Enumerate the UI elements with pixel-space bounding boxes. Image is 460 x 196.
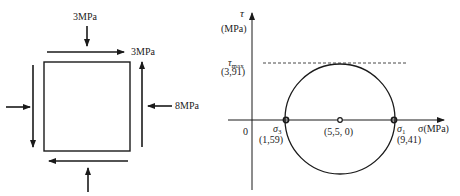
center-point bbox=[338, 118, 343, 123]
element-square bbox=[44, 62, 130, 151]
tau-max-value: (3,91) bbox=[221, 67, 245, 77]
sigma3-value: (1,59) bbox=[259, 135, 283, 145]
tau-axis-symbol: τ bbox=[240, 8, 244, 19]
center-value: (5,5, 0) bbox=[324, 127, 353, 137]
origin-label: 0 bbox=[243, 127, 248, 137]
top-normal-stress-label: 3MPa bbox=[73, 12, 97, 22]
mohr-circle-plot bbox=[228, 13, 444, 190]
right-normal-stress-label: 8MPa bbox=[175, 101, 199, 111]
sigma-axis-label: σ(MPa) bbox=[418, 124, 449, 134]
tau-axis-unit: (MPa) bbox=[221, 24, 247, 34]
sigma1-value: (9,41) bbox=[397, 135, 421, 145]
shear-stress-label: 3MPa bbox=[131, 47, 155, 57]
